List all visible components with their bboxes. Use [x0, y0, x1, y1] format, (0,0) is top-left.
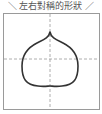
symmetric-shape-diagram: [0, 0, 102, 114]
